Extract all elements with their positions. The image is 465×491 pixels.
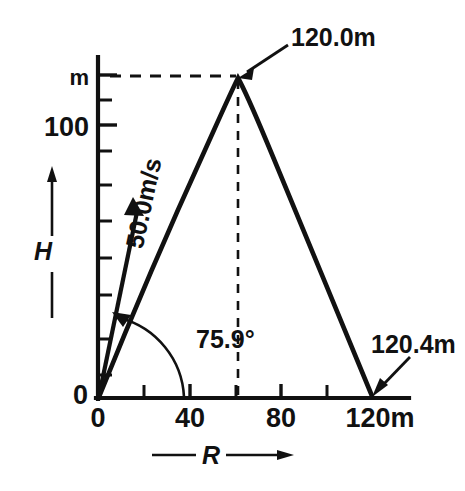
y-axis-name-group: H — [34, 166, 57, 318]
y-tick-label-unit: m — [69, 65, 89, 90]
projectile-motion-figure: H R m 100 0 0 40 80 120m 120.0m 120.4m 5… — [0, 0, 465, 491]
y-axis-name-label: H — [34, 237, 53, 265]
y-origin-label: 0 — [73, 380, 88, 410]
apex-callout-group — [238, 45, 288, 80]
x-axis-tick-labels: 0 40 80 120m — [90, 403, 414, 433]
launch-speed-label: 50.0m/s — [120, 155, 166, 251]
launch-angle-label: 75.9° — [196, 325, 255, 353]
angle-arc-group — [112, 312, 184, 397]
r-axis-arrowhead — [277, 450, 294, 460]
range-leader-line — [381, 357, 410, 387]
x-tick-label-40: 40 — [175, 403, 205, 433]
x-tick-label-0: 0 — [90, 403, 105, 433]
apex-leader-arrowhead — [238, 68, 254, 80]
launch-angle-arc — [120, 318, 184, 397]
x-tick-label-80: 80 — [266, 403, 296, 433]
range-callout-group — [372, 357, 410, 397]
apex-leader-line — [247, 45, 288, 72]
apex-height-label: 120.0m — [291, 23, 376, 51]
y-tick-label-100: 100 — [44, 112, 89, 142]
h-axis-arrowhead — [47, 166, 57, 182]
x-axis-name-group: R — [152, 441, 294, 469]
range-distance-label: 120.4m — [371, 330, 456, 358]
x-axis-name-label: R — [202, 441, 220, 469]
x-tick-label-120: 120m — [345, 403, 414, 433]
diagram-canvas: H R m 100 0 0 40 80 120m 120.0m 120.4m 5… — [0, 0, 465, 491]
